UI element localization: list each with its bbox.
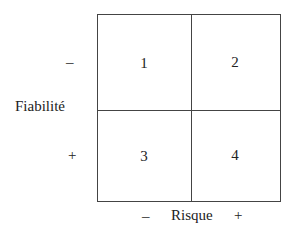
quadrant-2: 2 <box>225 54 245 71</box>
x-axis-left-sign: – <box>142 208 150 225</box>
x-axis-right-sign: + <box>234 207 242 224</box>
vertical-divider <box>191 15 192 201</box>
quadrant-3: 3 <box>134 148 154 165</box>
y-axis-bottom-sign: + <box>68 147 76 164</box>
x-axis-label: Risque <box>171 207 213 224</box>
horizontal-divider <box>98 110 280 111</box>
quadrant-1: 1 <box>134 55 154 72</box>
quadrant-grid: 1 2 3 4 <box>97 14 281 202</box>
y-axis-top-sign: – <box>66 54 74 71</box>
quadrant-4: 4 <box>225 147 245 164</box>
y-axis-label: Fiabilité <box>15 98 65 115</box>
